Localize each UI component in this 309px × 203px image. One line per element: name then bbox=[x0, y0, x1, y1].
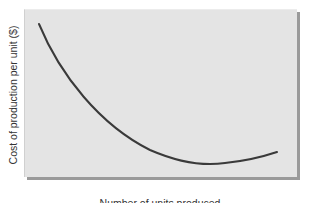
y-axis-label: Cost of production per unit ($) bbox=[7, 26, 19, 165]
x-axis-label: Number of units produced bbox=[100, 197, 221, 203]
cost-curve bbox=[0, 0, 309, 203]
